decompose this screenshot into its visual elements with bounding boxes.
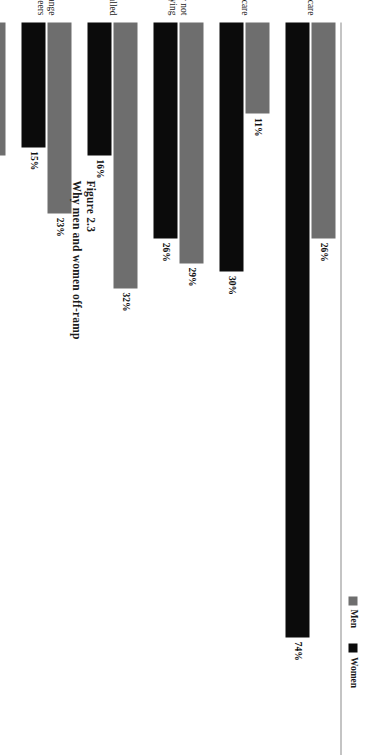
category-label: Stalled <box>107 0 118 15</box>
figure-number: Figure 2.3 <box>82 180 96 560</box>
men-swatch <box>349 596 358 605</box>
bar-row: 15% <box>21 22 45 687</box>
chart-legend: MenWomen <box>348 596 358 688</box>
legend-item: Women <box>348 643 358 687</box>
bar-group: Career notsatisfying29%26% <box>153 22 203 687</box>
bar-group: No longerinterestedin career16%11% <box>0 22 5 687</box>
bar-group: Changecareers23%15% <box>21 22 71 687</box>
bar-men <box>311 22 335 238</box>
legend-item: Men <box>348 596 358 627</box>
bar-value-label: 32% <box>120 288 130 311</box>
figure-title-block: Figure 2.3 Why men and women off-ramp <box>69 180 96 560</box>
bar-value-label: 29% <box>186 263 196 286</box>
bar-row: 26% <box>153 22 177 687</box>
bar-value-label: 15% <box>28 147 38 170</box>
legend-label: Men <box>348 609 358 627</box>
category-label: Childcare <box>305 0 316 15</box>
women-swatch <box>349 643 358 652</box>
category-label-line: careers <box>35 0 46 15</box>
bar-value-label: 26% <box>318 238 328 261</box>
bar-value-label: 30% <box>226 271 236 294</box>
bar-value-label: 11% <box>252 113 262 135</box>
bar-row: 16% <box>0 22 5 687</box>
bar-row: 74% <box>285 22 309 687</box>
category-label-line: Eldercare <box>239 0 250 15</box>
bar-men <box>113 22 137 288</box>
bar-value-label: 23% <box>54 213 64 236</box>
category-label: Changecareers <box>35 0 56 15</box>
bar-women <box>219 22 243 271</box>
bar-men <box>245 22 269 113</box>
category-label: Eldercare <box>239 0 250 15</box>
bar-value-label: 16% <box>94 155 104 178</box>
bar-men <box>0 22 5 155</box>
bar-row: 32% <box>113 22 137 687</box>
bar-group: Eldercare11%30% <box>219 22 269 687</box>
bar-men <box>47 22 71 213</box>
bar-women <box>285 22 309 637</box>
bar-row: 11% <box>245 22 269 687</box>
bar-women <box>21 22 45 147</box>
legend-label: Women <box>348 656 358 687</box>
bar-row: 30% <box>219 22 243 687</box>
bar-women <box>153 22 177 238</box>
bar-row: 26% <box>311 22 335 687</box>
category-label: Career notsatisfying <box>167 0 188 15</box>
bar-value-label: 26% <box>160 238 170 261</box>
category-label-line: Career not <box>178 0 189 15</box>
value-axis-baseline <box>340 22 341 755</box>
bar-row: 23% <box>47 22 71 687</box>
bar-men <box>179 22 203 263</box>
category-label-line: satisfying <box>167 0 178 15</box>
category-label-line: Stalled <box>107 0 118 15</box>
figure-title: Why men and women off-ramp <box>69 180 83 560</box>
bar-women <box>87 22 111 155</box>
category-label-line: Change <box>46 0 57 15</box>
category-label-line: Childcare <box>305 0 316 15</box>
bar-row: 29% <box>179 22 203 687</box>
bar-group: Childcare26%74% <box>285 22 335 687</box>
bar-value-label: 74% <box>292 637 302 660</box>
